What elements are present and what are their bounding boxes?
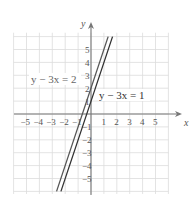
x-tick-label: 3 [127, 117, 132, 127]
x-tick-label: −4 [33, 117, 43, 127]
x-tick-label: −5 [21, 117, 31, 127]
y-tick-label: 5 [85, 45, 90, 55]
x-tick-label: −2 [59, 117, 69, 127]
equation-label-left: y − 3x = 2 [31, 73, 76, 85]
y-tick-label: −2 [82, 135, 92, 145]
y-tick-label: 3 [85, 71, 90, 81]
y-axis-label: y [80, 18, 86, 29]
coordinate-plane: −5−4−3−2−11234554321−1−2−3−4−5 x y y − 3… [0, 0, 195, 207]
x-tick-label: 2 [114, 117, 119, 127]
y-tick-label: −4 [82, 161, 92, 171]
y-tick-label: 4 [85, 58, 90, 68]
y-tick-label: 2 [85, 84, 90, 94]
x-tick-label: 1 [101, 117, 106, 127]
x-tick-label: 4 [140, 117, 145, 127]
x-tick-label: −3 [46, 117, 56, 127]
equation-label-right: y − 3x = 1 [99, 89, 144, 101]
y-tick-label: −3 [82, 148, 92, 158]
x-axis-label: x [183, 117, 189, 128]
y-tick-label: −5 [82, 174, 92, 184]
x-tick-label: 5 [153, 117, 158, 127]
